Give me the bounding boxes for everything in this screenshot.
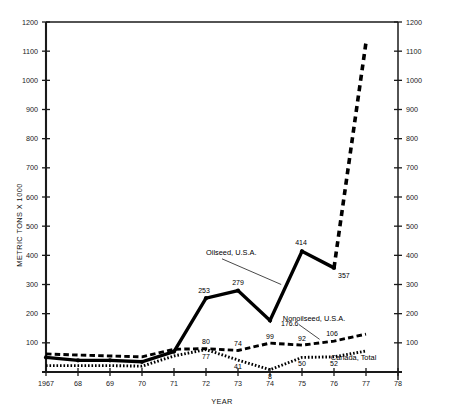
data-value-label: 279 [232, 279, 244, 286]
y-tick-label-right: 800 [406, 134, 418, 143]
y-tick-label-right: 700 [406, 163, 418, 172]
x-tick-label: 70 [138, 379, 146, 388]
data-point-marker [172, 349, 176, 353]
data-value-label: 253 [198, 287, 210, 294]
y-tick-label: 1000 [22, 76, 38, 85]
data-point-marker [268, 318, 272, 322]
y-tick-label-right: 1000 [406, 76, 422, 85]
data-point-marker [236, 289, 240, 293]
x-tick-label: 72 [202, 379, 210, 388]
chart-container: 100200300400500600700800900100011001200 … [0, 0, 450, 420]
y-tick-label: 500 [26, 222, 38, 231]
y-tick-label-right: 1100 [406, 47, 421, 56]
x-tick-label: 73 [234, 379, 242, 388]
y-tick-label-right: 200 [406, 309, 418, 318]
y-tick-label-right: 400 [406, 251, 418, 260]
data-point-marker [76, 358, 80, 362]
y-tick-label-right: 300 [406, 280, 418, 289]
y-tick-label-right: 1200 [406, 18, 422, 27]
data-point-marker [44, 355, 48, 359]
x-tick-label: 69 [106, 379, 114, 388]
x-tick-label: 74 [266, 379, 274, 388]
x-axis-title: YEAR [211, 397, 233, 406]
y-tick-label: 200 [26, 309, 38, 318]
series-annotation-label: Oilseed, U.S.A. [206, 248, 257, 257]
x-tick-label: 1967 [38, 379, 54, 388]
data-value-label: 80 [202, 338, 210, 345]
data-value-label: 414 [295, 239, 307, 246]
y-tick-label: 400 [26, 251, 38, 260]
y-tick-label: 900 [26, 105, 38, 114]
y-tick-label: 1100 [23, 47, 38, 56]
data-value-label: 41 [234, 363, 242, 370]
line-chart: 100200300400500600700800900100011001200 … [0, 0, 450, 420]
x-tick-label: 68 [74, 379, 82, 388]
y-tick-label: 100 [26, 338, 38, 347]
data-point-marker [204, 296, 208, 300]
y-tick-label-right: 900 [406, 105, 418, 114]
y-tick-label: 800 [26, 134, 38, 143]
data-point-marker [108, 358, 112, 362]
series-annotation-label: Nonoilseed, U.S.A. [283, 314, 345, 323]
y-tick-label: 700 [26, 163, 38, 172]
y-tick-label-right: 500 [406, 222, 418, 231]
data-value-label: 99 [266, 333, 274, 340]
data-point-marker [332, 266, 336, 270]
y-tick-label: 600 [26, 193, 38, 202]
data-point-marker [300, 249, 304, 253]
data-point-marker [140, 360, 144, 364]
data-value-label: 8 [268, 373, 272, 380]
data-value-label: 357 [338, 272, 350, 279]
y-tick-label-right: 100 [406, 338, 418, 347]
data-value-label: 92 [298, 335, 306, 342]
series-annotation-label: Canada, Total [331, 353, 377, 362]
data-value-label: 50 [298, 360, 306, 367]
x-tick-label: 71 [170, 379, 178, 388]
x-tick-label: 77 [362, 379, 370, 388]
x-tick-label: 76 [330, 379, 338, 388]
data-value-label: 106 [326, 330, 338, 337]
data-value-label: 77 [202, 353, 210, 360]
x-tick-label: 78 [394, 379, 402, 388]
data-value-label: 74 [234, 340, 242, 347]
y-axis-title: METRIC TONS X 1000 [15, 183, 24, 266]
x-tick-label: 75 [298, 379, 306, 388]
y-tick-label: 300 [26, 280, 38, 289]
y-tick-label-right: 600 [406, 193, 418, 202]
y-tick-label: 1200 [22, 18, 38, 27]
